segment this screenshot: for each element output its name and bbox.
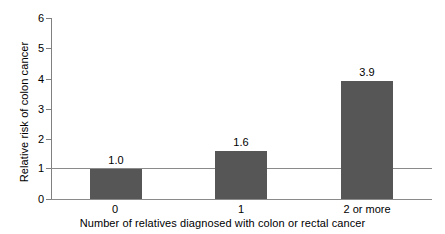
bar-value-0: 1.0 <box>91 155 141 166</box>
bar-2 <box>341 81 393 199</box>
bar-value-2: 3.9 <box>342 67 392 78</box>
y-tick-6 <box>46 18 51 19</box>
x-category-label-1: 1 <box>186 203 296 215</box>
bar-0 <box>90 169 142 199</box>
y-tick-0 <box>46 199 51 200</box>
x-axis-title: Number of relatives diagnosed with colon… <box>0 217 445 230</box>
y-tick-label-6: 6 <box>24 13 44 24</box>
y-tick-3 <box>46 109 51 110</box>
bar-chart: Relative risk of colon cancer 6 5 4 3 2 … <box>0 0 445 234</box>
plot-area: 6 5 4 3 2 1 0 1.0 1.6 3.9 0 1 2 or more <box>0 0 445 234</box>
x-axis-line <box>51 199 432 200</box>
bar-1 <box>215 151 267 199</box>
y-tick-label-2: 2 <box>24 134 44 145</box>
y-tick-label-5: 5 <box>24 43 44 54</box>
x-category-label-2: 2 or more <box>312 203 422 215</box>
y-tick-1 <box>46 168 51 169</box>
y-tick-label-0: 0 <box>24 194 44 205</box>
x-category-label-0: 0 <box>60 203 170 215</box>
bar-value-1: 1.6 <box>216 137 266 148</box>
y-tick-4 <box>46 79 51 80</box>
y-tick-5 <box>46 48 51 49</box>
y-tick-label-4: 4 <box>24 74 44 85</box>
y-axis-line <box>51 18 52 200</box>
y-tick-label-3: 3 <box>24 104 44 115</box>
y-tick-2 <box>46 139 51 140</box>
y-tick-label-1: 1 <box>24 163 44 174</box>
